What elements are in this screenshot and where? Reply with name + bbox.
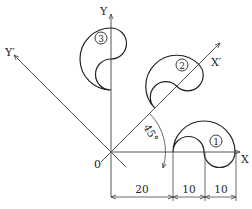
- shape-3-label: ③ 3: [95, 32, 107, 44]
- svg-text:2: 2: [179, 61, 185, 71]
- dim-label-10a: 10: [182, 183, 195, 195]
- y-prime-axis: [14, 55, 126, 167]
- svg-text:1: 1: [213, 137, 219, 147]
- x-prime-axis-label: X′: [211, 56, 222, 69]
- rotation-diagram: ① 1 ② 2 ③ 3 X Y X′ Y′ 0 45° 20 10 10: [0, 0, 252, 209]
- y-prime-axis-label: Y′: [4, 46, 15, 59]
- dim-label-20: 20: [135, 183, 148, 195]
- shape-1-label: ① 1: [210, 135, 222, 147]
- shape-1: [173, 121, 235, 168]
- x-axis-label: X: [241, 153, 249, 166]
- y-axis-label: Y: [99, 5, 108, 18]
- axes: [14, 14, 240, 197]
- shape-2-label: ② 2: [176, 59, 188, 71]
- origin-label: 0: [94, 158, 101, 171]
- svg-text:3: 3: [98, 34, 104, 44]
- shape-2: [133, 42, 210, 119]
- dim-label-10b: 10: [214, 183, 227, 195]
- dimensions: 20 10 10: [111, 152, 236, 201]
